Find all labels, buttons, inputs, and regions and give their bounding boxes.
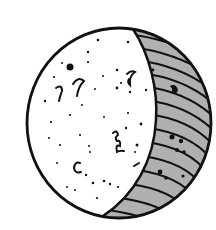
moon-illustration	[0, 0, 216, 230]
